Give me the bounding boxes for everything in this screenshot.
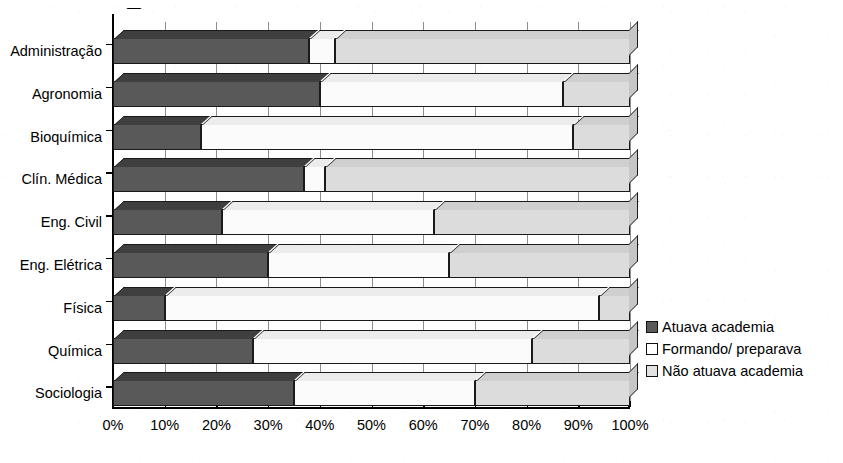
x-axis-tick-label: 60% <box>409 417 438 433</box>
x-axis-tick-label: 80% <box>512 417 541 433</box>
bar-row[interactable] <box>113 166 630 192</box>
x-axis-tick-label: 70% <box>460 417 489 433</box>
y-axis-tick <box>106 172 112 173</box>
legend-swatch-icon <box>646 343 658 355</box>
bar-top-face <box>166 287 608 296</box>
bar-top-face <box>114 372 303 381</box>
bar-segment[interactable] <box>449 252 630 278</box>
legend-swatch-icon <box>646 365 658 377</box>
bar-segment[interactable] <box>475 380 630 406</box>
bar-segment[interactable] <box>304 166 325 192</box>
y-axis-tick <box>106 258 112 259</box>
y-axis-label: Química <box>0 343 102 359</box>
plot-area <box>113 22 630 407</box>
bar-top-face <box>202 116 582 125</box>
x-axis-tick-label: 40% <box>305 417 334 433</box>
stacked-bar-chart: AdministraçãoAgronomiaBioquímicaClín. Mé… <box>0 0 843 463</box>
bar-segment[interactable] <box>113 380 294 406</box>
y-axis-tick <box>106 44 112 45</box>
bar-row[interactable] <box>113 81 630 107</box>
bar-top-face <box>435 201 639 210</box>
bar-segment[interactable] <box>113 38 309 64</box>
bar-row[interactable] <box>113 338 630 364</box>
bar-row[interactable] <box>113 209 630 235</box>
bar-top-face <box>223 201 443 210</box>
bar-top-face <box>295 372 484 381</box>
bar-segment[interactable] <box>113 124 201 150</box>
axis-depth-stub-icon <box>112 8 142 22</box>
bar-segment[interactable] <box>113 209 222 235</box>
legend-item[interactable]: Formando/ preparava <box>646 338 836 360</box>
y-axis-labels: AdministraçãoAgronomiaBioquímicaClín. Mé… <box>0 22 108 407</box>
bar-segment[interactable] <box>532 338 630 364</box>
x-axis-line: 0%10%20%30%40%50%60%70%80%90%100% <box>113 407 630 409</box>
y-axis-label: Eng. Elétrica <box>0 257 102 273</box>
bar-top-face <box>326 158 639 167</box>
y-axis-tick <box>106 344 112 345</box>
bar-row[interactable] <box>113 38 630 64</box>
y-axis-label: Agronomia <box>0 86 102 102</box>
bar-top-face <box>114 158 313 167</box>
y-axis-label: Eng. Civil <box>0 214 102 230</box>
bar-top-face <box>114 287 174 296</box>
y-axis-tick <box>106 301 112 302</box>
bar-top-face <box>114 330 262 339</box>
bar-top-face <box>336 30 639 39</box>
y-axis-tick <box>106 87 112 88</box>
bar-segment[interactable] <box>165 295 599 321</box>
bar-segment[interactable] <box>113 252 268 278</box>
x-axis-tick-label: 90% <box>564 417 593 433</box>
bar-segment[interactable] <box>325 166 630 192</box>
legend-label: Formando/ preparava <box>662 341 801 357</box>
legend-item[interactable]: Atuava academia <box>646 316 836 338</box>
bar-segment[interactable] <box>335 38 630 64</box>
bar-segment[interactable] <box>113 81 320 107</box>
bar-segment[interactable] <box>113 295 165 321</box>
y-axis-label: Administração <box>0 43 102 59</box>
x-axis-tick-label: 20% <box>202 417 231 433</box>
bar-top-face <box>533 330 639 339</box>
bar-top-face <box>476 372 639 381</box>
legend-item[interactable]: Não atuava academia <box>646 360 836 382</box>
bar-segment[interactable] <box>434 209 630 235</box>
bar-segment[interactable] <box>113 338 253 364</box>
y-axis-label: Física <box>0 300 102 316</box>
bar-segment[interactable] <box>268 252 449 278</box>
legend-swatch-icon <box>646 321 658 333</box>
bar-top-face <box>114 116 210 125</box>
bar-top-face <box>321 73 572 82</box>
x-axis-tick-label: 10% <box>150 417 179 433</box>
bar-segment[interactable] <box>113 166 304 192</box>
bar-segment[interactable] <box>320 81 563 107</box>
bar-row[interactable] <box>113 295 630 321</box>
y-axis-label: Clín. Médica <box>0 171 102 187</box>
bar-segment[interactable] <box>599 295 630 321</box>
y-axis-tick <box>106 215 112 216</box>
bar-top-face <box>114 201 231 210</box>
y-axis-label: Sociologia <box>0 385 102 401</box>
bar-top-face <box>114 244 277 253</box>
bar-row[interactable] <box>113 124 630 150</box>
legend-label: Atuava academia <box>662 319 774 335</box>
bar-row[interactable] <box>113 380 630 406</box>
x-axis-tick-label: 50% <box>357 417 386 433</box>
bar-top-face <box>114 73 329 82</box>
legend-label: Não atuava academia <box>662 363 803 379</box>
bar-segment[interactable] <box>253 338 532 364</box>
x-axis-tick-label: 0% <box>103 417 124 433</box>
y-axis-label: Bioquímica <box>0 129 102 145</box>
bar-top-face <box>114 30 318 39</box>
bar-top-face <box>254 330 541 339</box>
bar-row[interactable] <box>113 252 630 278</box>
bar-top-face <box>564 73 639 82</box>
x-axis-tick-label: 100% <box>611 417 648 433</box>
bar-segment[interactable] <box>222 209 434 235</box>
bar-segment[interactable] <box>294 380 475 406</box>
bar-segment[interactable] <box>563 81 630 107</box>
bar-top-face <box>269 244 458 253</box>
bar-segment[interactable] <box>573 124 630 150</box>
bar-segment[interactable] <box>309 38 335 64</box>
bar-segment[interactable] <box>201 124 573 150</box>
bar-top-face <box>450 244 639 253</box>
y-axis-tick <box>106 386 112 387</box>
